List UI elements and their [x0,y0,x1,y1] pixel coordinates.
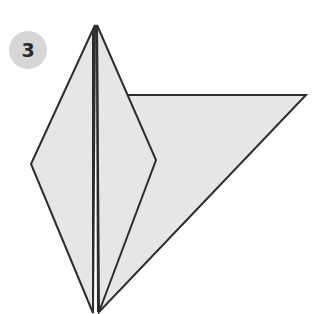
center-fold-line-right [97,30,98,312]
kite-left-half [31,25,95,313]
origami-fold-diagram [0,0,314,314]
